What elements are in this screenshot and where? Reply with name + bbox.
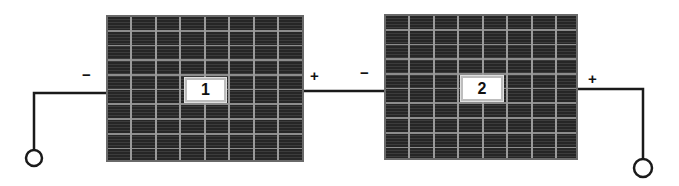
panel-2-number: 2 <box>478 80 487 98</box>
panel-1-positive-sign: + <box>310 68 319 83</box>
panel-2-positive-sign: + <box>588 71 597 86</box>
panel-1-label: 1 <box>185 78 226 102</box>
panel-2-label: 2 <box>461 76 503 101</box>
panel-1-number: 1 <box>201 81 210 99</box>
wire-negative-lead <box>34 93 107 150</box>
negative-terminal-icon <box>26 150 42 166</box>
positive-terminal-icon <box>634 159 652 177</box>
wire-positive-lead <box>577 89 643 159</box>
panel-2-negative-sign: − <box>360 65 369 80</box>
panel-1-negative-sign: − <box>82 67 91 82</box>
series-solar-diagram: 1 − + 2 − + <box>0 0 679 186</box>
